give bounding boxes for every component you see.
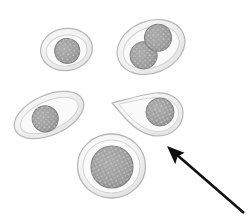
cell-large-round [78, 134, 146, 198]
diagram-canvas [0, 0, 249, 219]
cell-diagram-figure [0, 0, 249, 219]
nucleus [146, 98, 174, 126]
nucleus [91, 146, 133, 188]
